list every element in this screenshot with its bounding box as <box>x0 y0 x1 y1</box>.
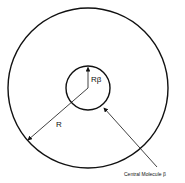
inner-radius-label: Rβ <box>91 75 102 84</box>
pointer-arrow <box>104 108 157 167</box>
outer-radius-line <box>73 88 88 101</box>
diagram-canvas: Rβ R Central Molecule β <box>0 0 185 183</box>
outer-radius-arrow-in <box>28 101 73 140</box>
central-molecule-label: Central Molecule β <box>124 171 166 177</box>
outer-radius-label: R <box>56 120 62 129</box>
